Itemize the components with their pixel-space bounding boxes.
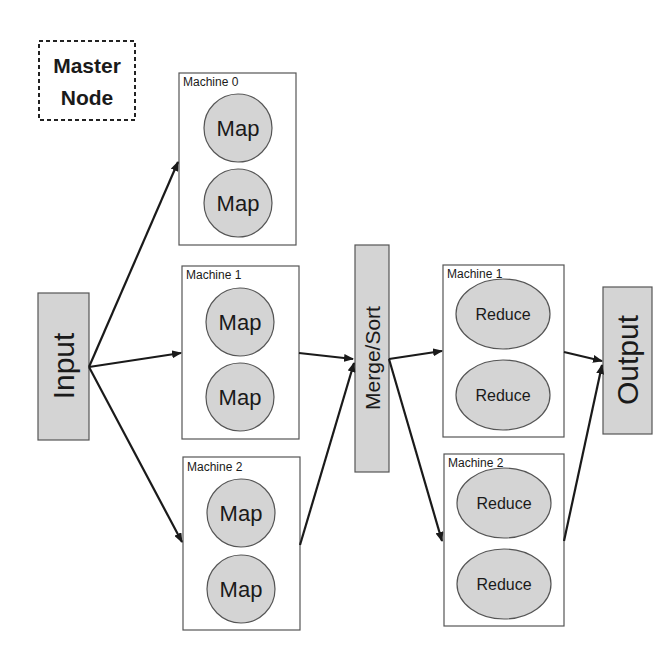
map-task-label: Map	[220, 501, 263, 526]
map-task-label: Map	[219, 310, 262, 335]
input-node: Input	[38, 293, 89, 440]
map-task-label: Map	[217, 191, 260, 216]
map-task-label: Map	[219, 385, 262, 410]
map-task-label: Map	[220, 577, 263, 602]
merge-sort-node: Merge/Sort	[355, 245, 389, 472]
machine-label: Machine 0	[183, 75, 239, 89]
reduce-task-label: Reduce	[475, 306, 530, 323]
master-node-line2: Node	[61, 86, 114, 109]
map-machine-0: Machine 0 Map Map	[179, 73, 296, 245]
machine-label: Machine 2	[448, 456, 504, 470]
merge-sort-label: Merge/Sort	[361, 306, 384, 410]
map-machine-1: Machine 1 Map Map	[182, 266, 299, 439]
output-node: Output	[603, 287, 652, 434]
machine-label: Machine 1	[447, 267, 503, 281]
map-machine-2: Machine 2 Map Map	[183, 457, 300, 630]
master-node: Master Node	[39, 41, 135, 120]
reduce-machine-1: Machine 1 Reduce Reduce	[443, 265, 564, 437]
arrow-reduce1-to-output	[564, 352, 602, 361]
reduce-machine-2: Machine 2 Reduce Reduce	[444, 454, 564, 626]
reduce-task-label: Reduce	[476, 495, 531, 512]
output-label: Output	[611, 314, 644, 405]
arrow-input-to-machine2	[89, 367, 182, 542]
reduce-task-label: Reduce	[476, 576, 531, 593]
arrow-merge-to-reduce2	[389, 359, 442, 541]
input-label: Input	[47, 332, 80, 399]
reduce-task-label: Reduce	[475, 387, 530, 404]
arrow-reduce2-to-output	[564, 365, 602, 541]
arrow-input-to-machine1	[89, 353, 181, 367]
arrow-machine2-to-merge	[300, 363, 354, 545]
machine-label: Machine 1	[186, 268, 242, 282]
arrow-input-to-machine0	[89, 162, 178, 367]
master-node-line1: Master	[53, 54, 121, 77]
map-task-label: Map	[217, 116, 260, 141]
arrow-machine1-to-merge	[299, 353, 353, 359]
arrow-merge-to-reduce1	[389, 351, 442, 359]
mapreduce-diagram: Master Node Input Machine 0 Map Map Mach…	[0, 0, 672, 655]
machine-label: Machine 2	[187, 460, 243, 474]
